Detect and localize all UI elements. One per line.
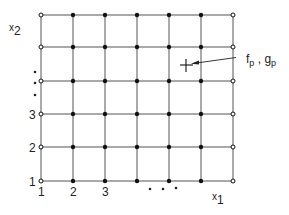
grid-node: [199, 45, 203, 49]
grid-node: [199, 179, 203, 183]
grid-boundary-node: [231, 79, 235, 83]
grid-node: [135, 179, 139, 183]
y-tick-3: 3: [29, 108, 36, 122]
x-tick-2: 2: [70, 185, 77, 199]
grid-node: [167, 145, 171, 149]
grid-boundary-node: [231, 112, 235, 116]
grid-node: [103, 45, 107, 49]
label-arrow: [191, 58, 236, 65]
grid-node: [71, 13, 75, 17]
x1-axis-label: x1: [212, 191, 224, 207]
grid-node: [167, 45, 171, 49]
grid-node: [103, 112, 107, 116]
point-p-cross-marker: [180, 59, 193, 72]
grid-boundary-node: [39, 13, 43, 17]
grid-lines: [41, 15, 233, 181]
grid-node: [135, 112, 139, 116]
grid-boundary-node: [231, 145, 235, 149]
grid-node: [71, 145, 75, 149]
grid-node: [103, 13, 107, 17]
grid-node: [135, 145, 139, 149]
grid-boundary-node: [39, 45, 43, 49]
grid-node: [135, 45, 139, 49]
grid-node: [167, 79, 171, 83]
y-ellipsis-dots: [34, 71, 37, 97]
grid-boundary-node: [39, 79, 43, 83]
grid-diagram: x2 x1 1 2 3 1 2 3 fp , gp: [0, 0, 289, 215]
grid-boundary-node: [231, 13, 235, 17]
grid-boundary-node: [39, 145, 43, 149]
grid-node: [103, 179, 107, 183]
grid-node: [71, 112, 75, 116]
grid-node: [167, 179, 171, 183]
grid-node: [199, 79, 203, 83]
grid-node: [71, 45, 75, 49]
x-ellipsis-dots: [149, 187, 178, 191]
grid-node: [167, 112, 171, 116]
grid-node: [71, 179, 75, 183]
x-tick-1: 1: [38, 185, 45, 199]
grid-boundary-node: [39, 112, 43, 116]
grid-node: [135, 13, 139, 17]
grid-node: [103, 79, 107, 83]
point-value-label: fp , gp: [246, 52, 276, 68]
y-tick-1: 1: [29, 175, 36, 189]
grid-boundary-node: [39, 179, 43, 183]
grid-boundary-node: [231, 179, 235, 183]
grid-node: [199, 145, 203, 149]
x2-axis-label: x2: [9, 22, 21, 38]
y-tick-2: 2: [29, 141, 36, 155]
grid-node: [135, 79, 139, 83]
grid-node: [103, 145, 107, 149]
x-tick-3: 3: [102, 185, 109, 199]
grid-node: [199, 112, 203, 116]
grid-node: [71, 79, 75, 83]
grid-node: [167, 13, 171, 17]
grid-boundary-node: [231, 45, 235, 49]
grid-node: [199, 13, 203, 17]
